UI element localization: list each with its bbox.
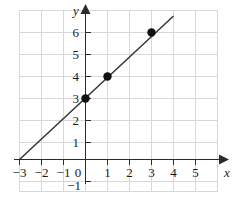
y-tick-label-6: 6 bbox=[73, 25, 80, 40]
x-tick-label-3: 3 bbox=[148, 165, 155, 180]
y-tick-label-4: 4 bbox=[73, 69, 80, 84]
x-tick-label-5: 5 bbox=[192, 165, 199, 180]
y-tick-label-1: 1 bbox=[73, 135, 80, 150]
y-tick-label-5: 5 bbox=[73, 47, 80, 62]
plot-area: −3 −2 −1 0 1 2 3 4 5 6 5 4 3 2 1 −1 y x bbox=[0, 0, 236, 209]
x-tick-label-neg3: −3 bbox=[13, 165, 27, 180]
grid-lines bbox=[19, 10, 218, 192]
y-tick-label-2: 2 bbox=[73, 113, 80, 128]
x-tick-label-1: 1 bbox=[104, 165, 111, 180]
data-point bbox=[81, 94, 89, 102]
x-axis-arrow-icon bbox=[219, 155, 229, 165]
y-tick-label-neg1: −1 bbox=[67, 178, 81, 193]
y-axis-arrow-icon bbox=[81, 4, 91, 14]
x-tick-label-neg2: −2 bbox=[35, 165, 49, 180]
y-axis-label: y bbox=[71, 3, 79, 18]
y-tick-label-3: 3 bbox=[73, 91, 80, 106]
data-point bbox=[103, 72, 111, 80]
data-point bbox=[147, 28, 155, 36]
coordinate-graph: −3 −2 −1 0 1 2 3 4 5 6 5 4 3 2 1 −1 y x bbox=[0, 0, 236, 209]
x-axis-label: x bbox=[223, 165, 230, 180]
x-tick-label-4: 4 bbox=[170, 165, 177, 180]
plotted-line bbox=[20, 17, 174, 160]
x-tick-label-2: 2 bbox=[126, 165, 133, 180]
